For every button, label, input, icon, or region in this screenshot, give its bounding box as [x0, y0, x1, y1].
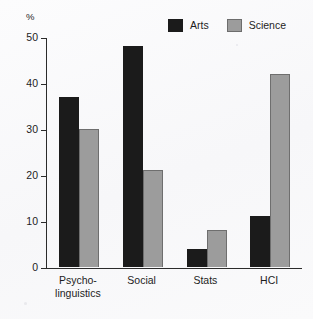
bar-arts	[123, 46, 143, 267]
bar-arts	[59, 97, 79, 267]
y-axis-tick-label: 10	[26, 216, 38, 227]
y-axis-tick-label: 50	[26, 32, 38, 43]
bar-group	[123, 37, 163, 267]
bar-science	[143, 170, 163, 267]
bar-arts	[250, 216, 270, 267]
scan-artifact	[24, 302, 27, 305]
bar-group	[187, 37, 227, 267]
y-axis-tick-label: 0	[32, 262, 38, 273]
x-axis-line	[46, 268, 302, 269]
bar-science	[79, 129, 99, 267]
y-axis-tick: 50	[41, 38, 46, 39]
y-axis-line	[46, 38, 47, 269]
y-axis-unit-label: %	[26, 12, 34, 22]
y-axis-tick-label: 30	[26, 124, 38, 135]
legend-label-arts: Arts	[190, 20, 209, 31]
bar-arts	[187, 249, 207, 267]
x-axis-category-label: HCI	[237, 274, 301, 287]
legend-swatch-arts	[168, 19, 183, 32]
bar-science	[207, 230, 227, 267]
y-axis-tick-label: 40	[26, 78, 38, 89]
y-axis-tick: 0	[41, 268, 46, 269]
bar-chart: % Arts Science 01020304050 Psycho- lingu…	[0, 0, 313, 319]
y-axis-tick: 10	[41, 222, 46, 223]
y-axis-tick: 20	[41, 176, 46, 177]
legend-swatch-science	[227, 19, 242, 32]
bar-group	[59, 37, 99, 267]
plot-area: 01020304050 Psycho- linguisticsSocialSta…	[46, 38, 301, 268]
chart-legend: Arts Science	[168, 17, 286, 33]
x-axis-category-label: Stats	[174, 274, 238, 287]
y-axis-tick: 40	[41, 84, 46, 85]
legend-item-science: Science	[227, 19, 286, 32]
y-axis-tick: 30	[41, 130, 46, 131]
legend-item-arts: Arts	[168, 19, 209, 32]
bar-group	[250, 37, 290, 267]
bar-science	[270, 74, 290, 267]
legend-label-science: Science	[249, 20, 286, 31]
x-axis-category-label: Psycho- linguistics	[46, 274, 110, 299]
y-axis-tick-label: 20	[26, 170, 38, 181]
x-axis-category-label: Social	[110, 274, 174, 287]
